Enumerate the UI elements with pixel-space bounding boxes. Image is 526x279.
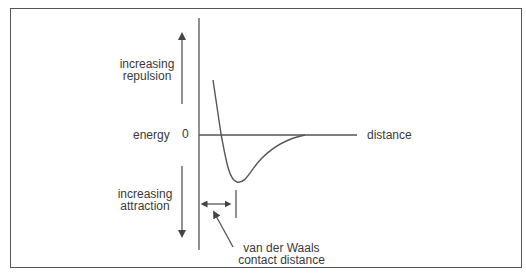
energy-label: energy bbox=[133, 129, 170, 141]
repulsion-label-line2: repulsion bbox=[112, 70, 182, 82]
distance-label: distance bbox=[367, 129, 412, 141]
annotation-pointer-arrow-icon bbox=[215, 214, 233, 247]
repulsion-label: increasing repulsion bbox=[112, 58, 182, 82]
diagram-canvas bbox=[0, 0, 526, 279]
vdw-annotation-line2: contact distance bbox=[234, 254, 329, 266]
attraction-label-line2: attraction bbox=[105, 200, 185, 212]
attraction-label: increasing attraction bbox=[105, 188, 185, 212]
zero-label: 0 bbox=[182, 128, 189, 140]
vdw-annotation-label: van der Waals contact distance bbox=[234, 242, 329, 266]
potential-energy-curve bbox=[213, 80, 305, 182]
